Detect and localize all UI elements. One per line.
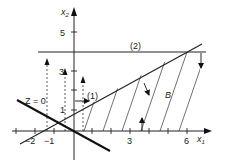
feasible-region-hatching (84, 52, 206, 131)
x-tick-6: 6 (184, 136, 189, 146)
x-axis-label: x1 (196, 134, 205, 145)
lp-diagram: −2 −1 3 6 x1 5 3 1 x2 (2) (1) Z = 0 B (0, 0, 231, 163)
x-axis-arrow-icon (204, 128, 212, 134)
up-arrow-icons (45, 58, 86, 83)
x-axis: −2 −1 3 6 x1 (12, 128, 212, 146)
y-tick-3: 3 (59, 67, 64, 77)
region-label-b: B (165, 90, 171, 100)
x-tick-3: 3 (127, 136, 132, 146)
y-axis: 5 3 1 x2 (59, 7, 77, 160)
objective-label: Z = 0 (25, 96, 46, 106)
y-axis-label: x2 (60, 7, 70, 18)
y-axis-arrow-icon (71, 7, 77, 16)
constraint-1-direction-arrow (144, 83, 149, 95)
x-tick-minus1: −1 (44, 136, 54, 146)
constraint-1-label: (1) (87, 91, 98, 101)
y-tick-5: 5 (60, 28, 65, 38)
constraint-2-label: (2) (130, 41, 141, 51)
y-tick-1: 1 (60, 105, 65, 115)
